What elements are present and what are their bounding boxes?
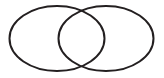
diagram-canvas: [0, 0, 164, 78]
venn-diagram-svg: [0, 0, 164, 78]
